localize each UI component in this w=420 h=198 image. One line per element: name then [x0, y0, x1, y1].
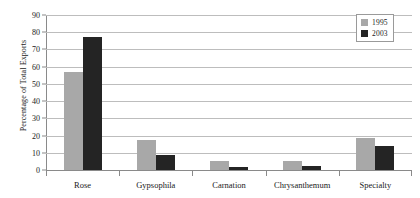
bar-chart: Percentage of Total Exports 010203040506…	[0, 0, 420, 198]
y-tick-label: 80	[32, 28, 40, 37]
category-label-gypsophila: Gypsophila	[119, 170, 192, 198]
bar-group	[46, 15, 119, 170]
legend-label: 1995	[372, 18, 388, 27]
bar-group	[266, 15, 339, 170]
category-tick	[411, 170, 412, 176]
bar-2003-specialty[interactable]	[375, 146, 394, 170]
category-label-specialty: Specialty	[339, 170, 412, 198]
bar-2003-rose[interactable]	[83, 37, 102, 170]
bar-group	[119, 15, 192, 170]
category-tick	[119, 170, 120, 176]
legend-swatch-icon	[361, 30, 368, 37]
y-tick-label: 30	[32, 114, 40, 123]
category-label-text: Gypsophila	[136, 180, 175, 190]
bar-group	[192, 15, 265, 170]
y-tick-label: 70	[32, 45, 40, 54]
bar-2003-gypsophila[interactable]	[156, 155, 175, 170]
legend-label: 2003	[372, 29, 388, 38]
y-tick-label: 0	[36, 166, 40, 175]
bar-1995-rose[interactable]	[64, 72, 83, 170]
legend-item-1995[interactable]: 1995	[361, 18, 388, 27]
category-label-text: Rose	[74, 180, 91, 190]
category-label-text: Specialty	[360, 180, 392, 190]
y-tick-label: 20	[32, 131, 40, 140]
y-tick-label: 90	[32, 11, 40, 20]
bar-1995-chrysanthemum[interactable]	[283, 161, 302, 170]
category-label-text: Carnation	[212, 180, 246, 190]
category-label-carnation: Carnation	[192, 170, 265, 198]
category-tick	[46, 170, 47, 176]
y-tick-label: 40	[32, 97, 40, 106]
category-label-rose: Rose	[46, 170, 119, 198]
legend: 1995 2003	[356, 14, 394, 42]
category-tick	[192, 170, 193, 176]
y-tick-label: 10	[32, 148, 40, 157]
category-tick	[339, 170, 340, 176]
bar-1995-specialty[interactable]	[356, 138, 375, 170]
y-axis-title: Percentage of Total Exports	[19, 16, 28, 156]
legend-swatch-icon	[361, 19, 368, 26]
category-tick	[266, 170, 267, 176]
bar-1995-gypsophila[interactable]	[137, 140, 156, 170]
category-label-text: Chrysanthemum	[274, 180, 330, 190]
category-axis: RoseGypsophilaCarnationChrysanthemumSpec…	[46, 170, 412, 198]
y-tick-label: 50	[32, 79, 40, 88]
category-label-chrysanthemum: Chrysanthemum	[266, 170, 339, 198]
y-tick-label: 60	[32, 62, 40, 71]
bar-1995-carnation[interactable]	[210, 161, 229, 170]
legend-item-2003[interactable]: 2003	[361, 29, 388, 38]
